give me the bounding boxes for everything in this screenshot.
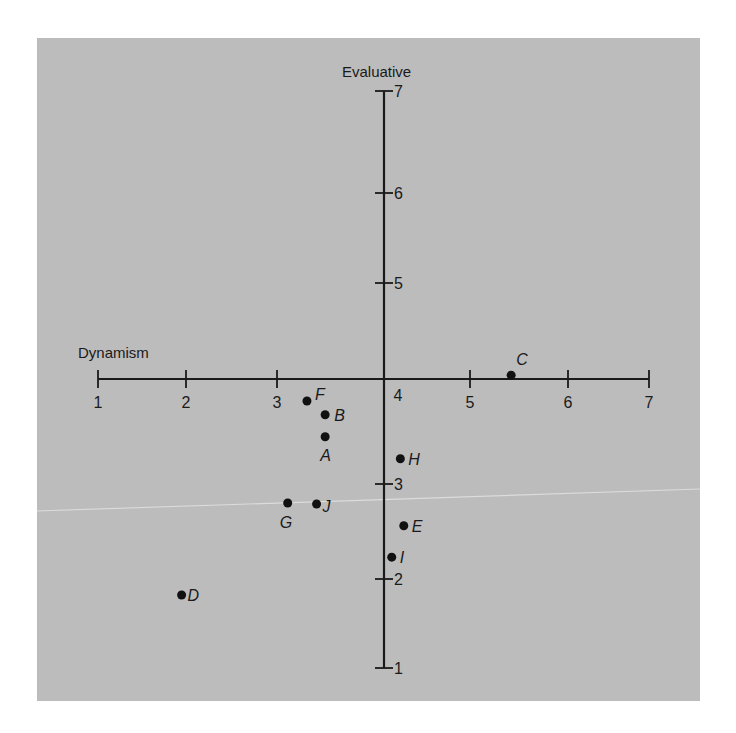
- point-marker: [302, 397, 311, 406]
- point-label: C: [516, 351, 528, 368]
- point-marker: [312, 499, 321, 508]
- y-axis-title: Evaluative: [342, 63, 411, 80]
- point-label: B: [334, 407, 345, 424]
- x-axis: 1234567: [94, 370, 654, 411]
- x-tick-label: 5: [466, 394, 475, 411]
- point-marker: [177, 591, 186, 600]
- data-point-a: A: [319, 432, 331, 464]
- point-label: A: [319, 447, 331, 464]
- point-label: J: [322, 498, 332, 515]
- data-point-j: J: [312, 498, 332, 515]
- y-tick-label: 3: [394, 476, 403, 493]
- point-label: G: [280, 514, 292, 531]
- data-point-e: E: [399, 518, 423, 535]
- data-point-d: D: [177, 587, 200, 604]
- point-marker: [321, 432, 330, 441]
- data-point-f: F: [302, 386, 326, 406]
- point-label: E: [412, 518, 423, 535]
- x-tick-label: 4: [394, 387, 403, 404]
- point-marker: [396, 454, 405, 463]
- scan-streak: [37, 489, 700, 511]
- point-marker: [507, 371, 516, 380]
- data-point-c: C: [507, 351, 528, 380]
- y-tick-label: 7: [394, 83, 403, 100]
- x-axis-title: Dynamism: [78, 344, 149, 361]
- data-point-i: I: [387, 549, 405, 566]
- point-label: D: [188, 587, 200, 604]
- point-label: F: [315, 386, 326, 403]
- point-marker: [399, 521, 408, 530]
- y-tick-label: 6: [394, 185, 403, 202]
- scatter-plot: 1234567 123567 Dynamism Evaluative ABCDE…: [0, 0, 736, 733]
- point-marker: [283, 499, 292, 508]
- x-tick-label: 1: [94, 394, 103, 411]
- y-tick-label: 5: [394, 275, 403, 292]
- data-point-b: B: [321, 407, 346, 424]
- data-points: ABCDEFGHIJ: [177, 351, 528, 604]
- x-tick-label: 6: [564, 394, 573, 411]
- x-tick-label: 3: [273, 394, 282, 411]
- point-label: H: [408, 451, 420, 468]
- x-tick-label: 2: [182, 394, 191, 411]
- data-point-h: H: [396, 451, 421, 468]
- y-tick-label: 1: [394, 660, 403, 677]
- y-tick-label: 2: [394, 571, 403, 588]
- point-label: I: [400, 549, 405, 566]
- x-tick-label: 7: [645, 394, 654, 411]
- point-marker: [321, 410, 330, 419]
- point-marker: [387, 553, 396, 562]
